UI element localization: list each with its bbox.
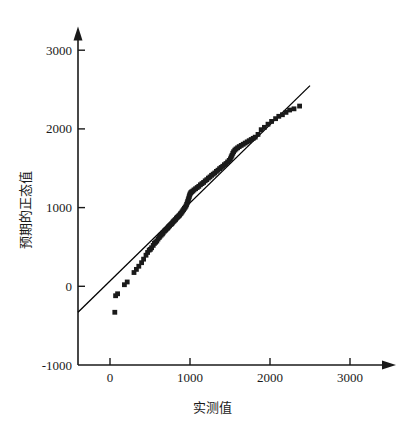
x-tick-label: 3000 xyxy=(337,370,363,385)
data-point xyxy=(112,310,117,315)
data-point xyxy=(292,106,297,111)
y-axis-arrow-head xyxy=(74,27,83,41)
y-axis-title: 预期的正态值 xyxy=(18,171,33,249)
y-tick-label: 1000 xyxy=(46,200,72,215)
data-point xyxy=(115,291,120,296)
x-axis-title-text: 实测值 xyxy=(193,400,232,415)
data-point xyxy=(287,108,292,113)
x-axis-title: 实测值 xyxy=(193,400,232,415)
chart-svg: -10000100020003000 0100020003000 实测值 预期的… xyxy=(0,0,410,428)
x-axis-arrow-head xyxy=(382,361,396,370)
normal-probability-plot: -10000100020003000 0100020003000 实测值 预期的… xyxy=(0,0,410,428)
x-tick-label: 2000 xyxy=(257,370,283,385)
x-axis-ticks: 0100020003000 xyxy=(107,358,363,385)
data-point xyxy=(256,132,261,137)
x-tick-label: 1000 xyxy=(177,370,203,385)
axes-layer xyxy=(74,27,397,370)
y-tick-label: 3000 xyxy=(46,43,72,58)
data-point xyxy=(297,104,302,109)
y-tick-label: 0 xyxy=(66,279,73,294)
y-tick-label: -1000 xyxy=(42,358,72,373)
data-point xyxy=(125,280,130,285)
y-axis-title-text: 预期的正态值 xyxy=(18,171,33,249)
x-tick-label: 0 xyxy=(107,370,114,385)
scatter-points xyxy=(112,104,302,315)
y-tick-label: 2000 xyxy=(46,121,72,136)
